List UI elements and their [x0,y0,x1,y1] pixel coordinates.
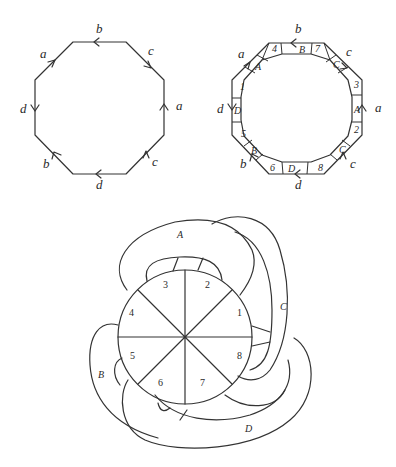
sector-label: 8 [237,350,242,361]
sector-label: 1 [237,307,242,318]
band-label-bottom-left: B [251,145,257,156]
band-label-C: C [280,301,287,312]
edge-label-bottom: d [295,177,302,192]
corner-number: 5 [241,128,246,139]
corner-number: 7 [315,43,321,54]
edge-label-top: b [295,21,302,36]
edge-label-left: d [217,101,224,116]
edge-label-right: a [375,100,382,115]
sector-label: 4 [129,307,134,318]
band-label-bottom: D [287,163,296,174]
band-label-bottom-right: C [339,144,346,155]
corner-number: 3 [353,79,359,90]
corner-number: 8 [318,162,323,173]
band-label-D: D [244,423,253,434]
sector-label: 7 [200,377,205,388]
edge-label-bottom-left: b [240,156,247,171]
sector-label: 5 [130,350,135,361]
edge-label-bottom: d [96,177,103,192]
sector-label: 6 [158,377,163,388]
edge-label-top-left: a [40,46,47,61]
edge-label-left: d [20,101,27,116]
band-label-right: A [353,104,361,115]
left-octagon: b c a c d b d a [20,21,183,192]
corner-number: 2 [354,124,359,135]
band-label-left: D [233,105,242,116]
edge-label-bottom-left: b [43,156,50,171]
arrow-icon [144,61,151,68]
surface-construction-diagram: b c a c d b d a [0,0,396,467]
edge-label-bottom-right: c [350,156,356,171]
band-label-top: B [299,44,305,55]
corner-number: 1 [240,81,245,92]
edge-label-top: b [96,21,103,36]
band-label-A: A [176,229,184,240]
arrow-icon [52,152,61,159]
disk-with-bands: 1 2 3 4 5 6 7 8 A C D B [90,217,311,448]
band-label-top-right: C [333,59,340,70]
corner-number: 6 [270,162,275,173]
edge-label-right: a [176,98,183,113]
sector-label: 3 [163,279,168,290]
edge-label-bottom-right: c [152,154,158,169]
sector-label: 2 [205,279,210,290]
edge-label-top-right: c [346,44,352,59]
edge-label-top-right: c [148,43,154,58]
edge-label-top-left: a [238,46,245,61]
corner-number: 4 [272,43,277,54]
band-label-B: B [98,369,104,380]
band-label-top-left: A [254,61,262,72]
right-octagon: b c a c d b d a B C A C D B D A 4 7 3 2 … [217,21,382,192]
